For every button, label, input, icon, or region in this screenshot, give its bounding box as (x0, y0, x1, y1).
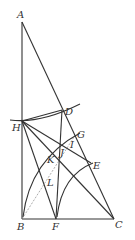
segment-HE (22, 121, 91, 163)
label-K: K (46, 154, 55, 165)
label-B: B (16, 221, 24, 232)
label-A: A (16, 9, 24, 20)
segment-AC (22, 22, 114, 219)
label-G: G (77, 129, 85, 140)
label-E: E (92, 160, 101, 171)
arc-F-E (57, 163, 93, 217)
label-D: D (64, 106, 73, 117)
geometry-diagram: A H D G I J K E L B F C (0, 0, 135, 240)
label-L: L (46, 177, 54, 188)
label-C: C (115, 219, 123, 230)
label-I: I (69, 139, 75, 150)
label-J: J (58, 147, 65, 158)
segment-HD (22, 110, 62, 121)
label-F: F (51, 221, 60, 232)
label-H: H (11, 122, 21, 133)
